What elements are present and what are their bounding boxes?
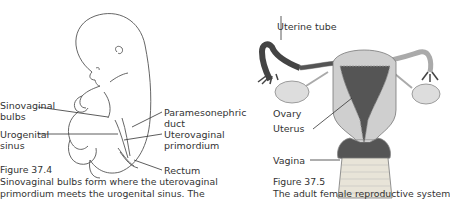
- label-line: Urogenital: [0, 129, 49, 140]
- label-sinovaginal-bulbs: Sinovaginal bulbs: [0, 100, 55, 122]
- caption-figure-37-5-line1: The adult female reproductive system: [273, 188, 450, 200]
- label-line: bulbs: [0, 111, 55, 122]
- label-line: primordium: [164, 140, 225, 151]
- label-line: Paramesonephric: [164, 107, 246, 118]
- uterus-illustration: [258, 44, 440, 198]
- label-rectum: Rectum: [164, 165, 200, 176]
- label-urogenital-sinus: Urogenital sinus: [0, 129, 49, 151]
- label-line: duct: [164, 118, 246, 129]
- caption-figure-37-4-line2: primordium meets the urogenital sinus. T…: [0, 188, 205, 200]
- label-uterovaginal-primordium: Uterovaginal primordium: [164, 129, 225, 151]
- label-ovary: Ovary: [273, 108, 301, 119]
- caption-figure-37-4-number: Figure 37.4: [0, 164, 52, 176]
- label-uterine-tube: Uterine tube: [277, 21, 337, 32]
- label-line: Sinovaginal: [0, 100, 55, 111]
- caption-figure-37-5-number: Figure 37.5: [273, 176, 325, 188]
- label-line: sinus: [0, 140, 49, 151]
- label-uterus: Uterus: [273, 123, 304, 134]
- label-paramesonephric-duct: Paramesonephric duct: [164, 107, 246, 129]
- caption-figure-37-4-line1: Sinovaginal bulbs form where the uterova…: [0, 176, 218, 188]
- label-vagina: Vagina: [273, 155, 305, 166]
- label-line: Uterovaginal: [164, 129, 225, 140]
